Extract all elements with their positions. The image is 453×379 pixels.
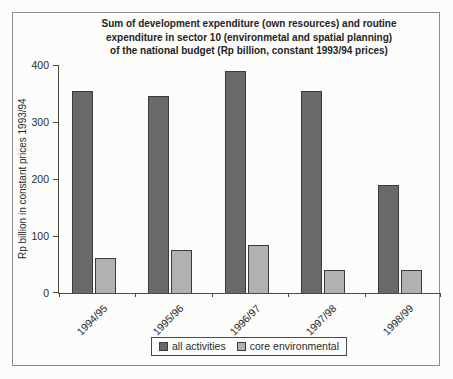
- legend-label-all-activities: all activities: [172, 340, 226, 352]
- y-tick-label-300: 300: [31, 116, 49, 128]
- legend-swatch-all-activities: [159, 342, 168, 351]
- y-tick-label-200: 200: [31, 173, 49, 185]
- bar-core-environmental-1995-96: [171, 250, 192, 293]
- bar-all-activities-1994-95: [72, 91, 93, 293]
- bar-core-environmental-1997-98: [324, 270, 345, 293]
- chart-title: Sum of development expenditure (own reso…: [78, 17, 420, 58]
- y-tick-label-100: 100: [31, 230, 49, 242]
- y-tick-label-400: 400: [31, 59, 49, 71]
- chart-figure: Sum of development expenditure (own reso…: [0, 0, 453, 379]
- bar-group-1998-99: [365, 65, 441, 293]
- bar-core-environmental-1998-99: [401, 270, 422, 293]
- x-label-1995-96: 1995/96: [151, 302, 186, 337]
- bar-all-activities-1997-98: [301, 91, 322, 293]
- chart-title-line-2: expenditure in sector 10 (environmetal a…: [78, 31, 420, 45]
- x-label-1996-97: 1996/97: [227, 302, 262, 337]
- chart-title-line-3: of the national budget (Rp billion, cons…: [78, 44, 420, 58]
- bar-core-environmental-1994-95: [95, 258, 116, 293]
- x-label-1994-95: 1994/95: [74, 302, 109, 337]
- bar-group-1994-95: [59, 65, 135, 293]
- bar-core-environmental-1996-97: [248, 245, 269, 293]
- bar-all-activities-1995-96: [148, 96, 169, 293]
- bar-all-activities-1998-99: [378, 185, 399, 293]
- x-label-1998-99: 1998/99: [380, 302, 415, 337]
- plot-area: [58, 65, 441, 294]
- x-label-1997-98: 1997/98: [303, 302, 338, 337]
- bar-group-1996-97: [212, 65, 288, 293]
- legend-item-core-environmental: core environmental: [237, 340, 339, 352]
- y-tick-label-0: 0: [43, 287, 49, 299]
- legend-item-all-activities: all activities: [159, 340, 226, 352]
- chart-title-line-1: Sum of development expenditure (own reso…: [78, 17, 420, 31]
- legend-label-core-environmental: core environmental: [250, 340, 339, 352]
- legend-swatch-core-environmental: [237, 342, 246, 351]
- x-axis-labels: 1994/95 1995/96 1996/97 1997/98 1998/99: [58, 296, 440, 338]
- y-axis: 400 300 200 100 0: [0, 65, 58, 293]
- bar-series-container: [59, 65, 441, 293]
- legend: all activities core environmental: [151, 337, 347, 356]
- bar-group-1997-98: [288, 65, 364, 293]
- x-tick-mark: [440, 293, 441, 297]
- bar-group-1995-96: [135, 65, 211, 293]
- bar-all-activities-1996-97: [225, 71, 246, 293]
